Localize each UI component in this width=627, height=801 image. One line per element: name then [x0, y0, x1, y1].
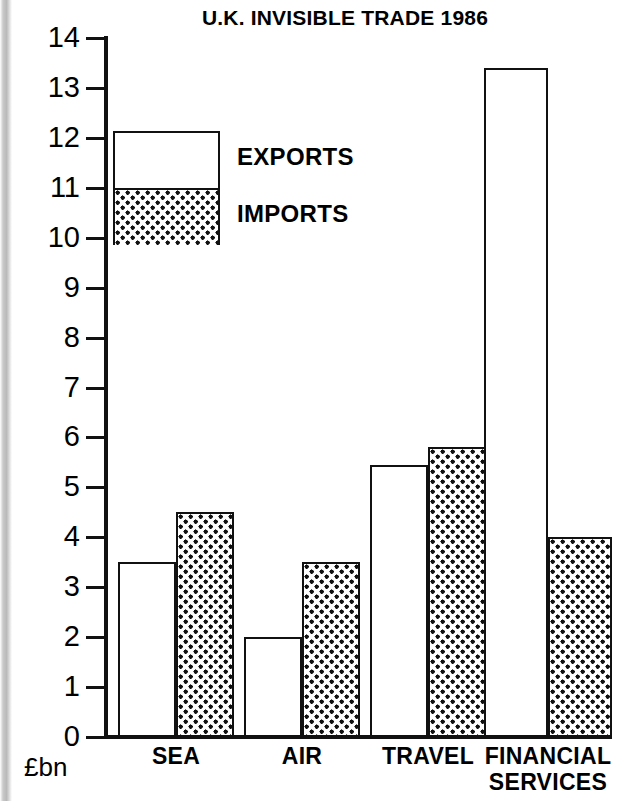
y-axis-tick — [86, 237, 106, 240]
y-axis-tick-label: 7 — [26, 373, 80, 402]
y-axis-tick-label: 5 — [26, 472, 80, 501]
bar-air-imports — [302, 562, 360, 737]
legend-swatch-imports — [115, 190, 218, 245]
y-axis-tick — [86, 187, 106, 190]
y-axis-tick-label: 0 — [26, 722, 80, 751]
y-axis-tick — [86, 87, 106, 90]
y-axis-tick — [86, 387, 106, 390]
y-axis-tick-label: 3 — [26, 572, 80, 601]
bar-financial-services-imports — [548, 537, 612, 737]
y-axis-tick — [86, 37, 106, 40]
y-axis-tick-label: 14 — [26, 23, 80, 52]
y-axis-tick — [86, 536, 106, 539]
legend-label-exports: EXPORTS — [237, 143, 354, 171]
bar-travel-imports — [428, 447, 486, 737]
bar-financial-services-exports — [484, 68, 548, 737]
x-axis-category-label-line: FINANCIAL — [460, 743, 627, 769]
bar-sea-exports — [118, 562, 176, 737]
y-axis-unit-label: £bn — [24, 752, 67, 783]
bar-sea-imports — [176, 512, 234, 737]
bar-chart-figure: U.K. INVISIBLE TRADE 1986 01234567891011… — [0, 0, 627, 801]
y-axis-tick — [86, 636, 106, 639]
y-axis-tick-label: 4 — [26, 522, 80, 551]
bar-travel-exports — [370, 465, 428, 737]
y-axis-tick-label: 8 — [26, 323, 80, 352]
legend-swatch-exports — [115, 133, 218, 190]
y-axis-tick-label: 2 — [26, 622, 80, 651]
y-axis-tick — [86, 586, 106, 589]
chart-legend: EXPORTS IMPORTS — [113, 131, 413, 245]
x-axis-category-label-financial-services: FINANCIALSERVICES — [460, 743, 627, 795]
y-axis-tick — [86, 486, 106, 489]
y-axis-tick-label: 10 — [26, 223, 80, 252]
y-axis-tick-label: 12 — [26, 123, 80, 152]
y-axis-tick — [86, 137, 106, 140]
y-axis-tick-label: 6 — [26, 422, 80, 451]
y-axis-tick-label: 11 — [26, 173, 80, 202]
y-axis-tick — [86, 436, 106, 439]
chart-title: U.K. INVISIBLE TRADE 1986 — [110, 6, 580, 30]
legend-label-imports: IMPORTS — [237, 200, 348, 228]
y-axis-tick — [86, 736, 106, 739]
y-axis-tick — [86, 287, 106, 290]
legend-swatch-box — [113, 131, 220, 245]
x-axis-category-label-line: SERVICES — [460, 769, 627, 795]
y-axis-tick — [86, 337, 106, 340]
y-axis-tick-label: 13 — [26, 73, 80, 102]
y-axis-tick-label: 9 — [26, 273, 80, 302]
bar-air-exports — [244, 637, 302, 737]
y-axis-tick-label: 1 — [26, 672, 80, 701]
y-axis-tick — [86, 686, 106, 689]
